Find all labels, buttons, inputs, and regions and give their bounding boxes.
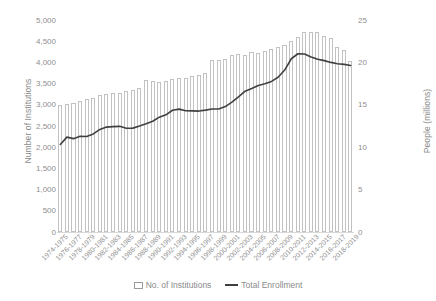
line-series bbox=[57, 20, 354, 232]
total-enrollment-line bbox=[60, 54, 350, 145]
chart-container: Number of Institutions People (millions)… bbox=[0, 0, 436, 301]
chart-legend: No. of Institutions Total Enrollment bbox=[0, 280, 436, 290]
x-axis-ticks: 1974-19751976-19771978-19791980-19811982… bbox=[57, 233, 354, 279]
plot-area bbox=[57, 20, 354, 232]
y-axis-right-tick: 0 bbox=[358, 228, 362, 237]
line-swatch-icon bbox=[225, 284, 238, 286]
y-axis-left-tick: 5,000 bbox=[36, 16, 56, 25]
legend-item-enrollment: Total Enrollment bbox=[225, 280, 302, 290]
y-axis-left-tick: 1,500 bbox=[36, 164, 56, 173]
legend-item-institutions: No. of Institutions bbox=[134, 280, 212, 290]
y-axis-left-tick: 500 bbox=[43, 206, 56, 215]
y-axis-right-title: People (millions) bbox=[422, 41, 432, 201]
y-axis-left-tick: 0 bbox=[52, 228, 56, 237]
y-axis-right-ticks: 2520151050 bbox=[358, 0, 392, 301]
y-axis-right-tick: 10 bbox=[358, 143, 367, 152]
bar-swatch-icon bbox=[134, 282, 143, 289]
y-axis-right-tick: 5 bbox=[358, 185, 362, 194]
y-axis-left-tick: 2,500 bbox=[36, 122, 56, 131]
y-axis-right-tick: 25 bbox=[358, 16, 367, 25]
y-axis-left-tick: 4,500 bbox=[36, 37, 56, 46]
y-axis-left-tick: 1,000 bbox=[36, 185, 56, 194]
y-axis-left-tick: 3,000 bbox=[36, 100, 56, 109]
y-axis-right-tick: 15 bbox=[358, 100, 367, 109]
y-axis-right-tick: 20 bbox=[358, 58, 367, 67]
y-axis-left-tick: 2,000 bbox=[36, 143, 56, 152]
legend-label-institutions: No. of Institutions bbox=[146, 280, 212, 290]
y-axis-left-tick: 4,000 bbox=[36, 58, 56, 67]
y-axis-left-tick: 3,500 bbox=[36, 79, 56, 88]
legend-label-enrollment: Total Enrollment bbox=[241, 280, 302, 290]
